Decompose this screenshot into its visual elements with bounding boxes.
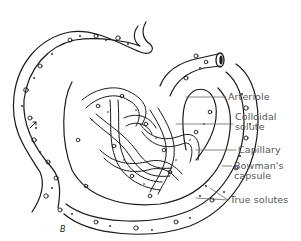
capillary-tangle: [82, 88, 199, 194]
capsule-inner-wall: [24, 26, 140, 208]
label-arteriole: Arteriole: [228, 92, 270, 102]
arteriole-tube-bottom: [170, 66, 220, 96]
label-colloidal-line2: solute: [235, 122, 277, 132]
capsule-lower-inner: [66, 72, 244, 221]
signature: B: [60, 225, 66, 234]
colloidal-particles: [24, 34, 249, 230]
label-bowmans-line2: capsule: [234, 171, 284, 181]
arrow-marker: [30, 122, 36, 128]
label-bowmans-capsule: Bowman's capsule: [234, 161, 284, 181]
capsule-lower-outer: [64, 64, 258, 234]
label-capillary: Capillary: [238, 145, 281, 155]
label-colloidal-solute: Colloidal solute: [235, 112, 277, 132]
label-true-solutes: True solutes: [230, 195, 288, 205]
renal-corpuscle-diagram: B Arteriole Colloidal solute Capillary B…: [0, 0, 301, 241]
arteriole-tube-top: [160, 54, 218, 86]
